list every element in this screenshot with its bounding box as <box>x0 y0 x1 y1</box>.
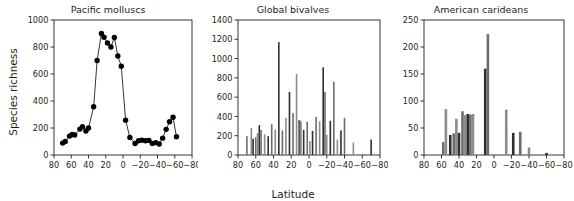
bar <box>458 133 461 155</box>
y-tick-label: 1000 <box>212 54 233 64</box>
bar <box>505 110 508 155</box>
bar <box>274 129 276 155</box>
x-tick-label: 40 <box>268 160 278 170</box>
x-tick-label: −40 <box>149 160 166 170</box>
bar <box>285 118 287 155</box>
bar <box>484 69 487 155</box>
data-point-marker <box>72 132 77 137</box>
bar <box>306 122 308 155</box>
y-tick-label: 200 <box>33 123 49 133</box>
bar <box>324 92 326 155</box>
x-tick-label: 60 <box>66 160 76 170</box>
data-point-marker <box>108 44 113 49</box>
bar <box>260 130 262 155</box>
x-tick-label: −20 <box>318 160 335 170</box>
bar <box>455 119 458 155</box>
bar <box>469 115 472 156</box>
data-point-marker <box>170 115 175 120</box>
data-point-marker <box>80 124 85 129</box>
bar <box>442 142 445 155</box>
y-tick-label: 150 <box>403 69 419 79</box>
y-tick-label: 0 <box>43 150 48 160</box>
bar <box>303 130 305 155</box>
bar <box>326 135 328 155</box>
x-tick-label: 0 <box>306 160 311 170</box>
x-tick-label: 80 <box>49 160 59 170</box>
x-tick-label: 20 <box>101 160 111 170</box>
bar <box>545 153 548 155</box>
x-tick-label: 80 <box>233 160 243 170</box>
data-point-marker <box>94 58 99 63</box>
x-tick-label: 0 <box>120 160 125 170</box>
y-tick-label: 600 <box>33 69 49 79</box>
x-tick-label: −40 <box>520 160 537 170</box>
bar <box>449 135 452 155</box>
data-point-marker <box>63 139 68 144</box>
data-point-marker <box>127 135 132 140</box>
bar <box>344 118 346 155</box>
bar <box>472 114 475 155</box>
plot-area-2: 050100150200250806040200−20−40−60−80 <box>388 0 574 201</box>
bar <box>445 109 448 155</box>
y-axis-label-container: Species richness <box>0 0 18 201</box>
x-tick-label: 40 <box>83 160 93 170</box>
bar <box>466 114 469 155</box>
data-point-marker <box>167 119 172 124</box>
bar <box>252 139 254 155</box>
bar <box>292 113 294 155</box>
bar <box>370 140 372 155</box>
x-tick-label: 60 <box>251 160 261 170</box>
bar <box>271 124 273 155</box>
bar <box>257 133 259 155</box>
x-tick-label: −40 <box>336 160 353 170</box>
y-tick-label: 250 <box>403 15 419 25</box>
x-tick-label: −80 <box>371 160 388 170</box>
panel-american-carideans: American carideans 050100150200250806040… <box>388 0 574 201</box>
y-tick-label: 200 <box>217 131 233 141</box>
y-tick-label: 200 <box>403 42 419 52</box>
bar <box>315 117 317 155</box>
bar <box>337 140 339 155</box>
figure-root: Species richness Pacific molluscs 020040… <box>0 0 574 201</box>
data-point-marker <box>86 125 91 130</box>
y-tick-label: 50 <box>408 123 418 133</box>
bar <box>312 131 314 155</box>
y-tick-label: 0 <box>413 150 418 160</box>
bar <box>461 111 464 155</box>
x-tick-label: 80 <box>419 160 429 170</box>
bar <box>296 74 298 155</box>
data-point-marker <box>163 127 168 132</box>
bar <box>487 34 490 155</box>
data-point-marker <box>91 104 96 109</box>
plot-area-0: 02004006008001000806040200−20−40−60−80 <box>18 0 198 201</box>
x-tick-label: −80 <box>555 160 572 170</box>
y-tick-label: 800 <box>217 73 233 83</box>
x-tick-label: 20 <box>286 160 296 170</box>
bar <box>259 125 261 155</box>
y-tick-label: 400 <box>217 112 233 122</box>
x-tick-label: −60 <box>166 160 183 170</box>
bar <box>353 142 355 155</box>
x-tick-label: −60 <box>538 160 555 170</box>
y-tick-label: 100 <box>403 96 419 106</box>
bar <box>333 82 335 155</box>
data-point-marker <box>157 141 162 146</box>
data-point-marker <box>101 35 106 40</box>
y-tick-label: 1000 <box>28 15 49 25</box>
bar <box>519 132 522 155</box>
bar <box>264 134 266 155</box>
y-tick-label: 600 <box>217 92 233 102</box>
bar <box>340 130 342 155</box>
bar <box>452 133 455 155</box>
bar <box>278 42 280 155</box>
y-tick-label: 400 <box>33 96 49 106</box>
data-point-marker <box>112 35 117 40</box>
data-point-marker <box>119 63 124 68</box>
y-tick-label: 1200 <box>212 34 233 44</box>
y-tick-label: 1400 <box>212 15 233 25</box>
x-tick-label: 0 <box>491 160 496 170</box>
x-tick-label: −20 <box>503 160 520 170</box>
bar <box>528 147 531 155</box>
data-point-marker <box>160 135 165 140</box>
x-tick-label: −20 <box>132 160 149 170</box>
